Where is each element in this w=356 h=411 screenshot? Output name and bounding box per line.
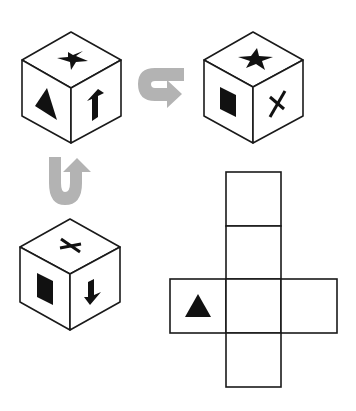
- u-turn-arrow-up-icon: [49, 157, 91, 205]
- cube-puzzle-figure: cross: [0, 0, 356, 411]
- u-turn-arrow-right-icon: [138, 68, 184, 108]
- net-cell-center: [226, 279, 281, 333]
- net-cell-bottom: [226, 333, 281, 387]
- net-cell-top: [226, 172, 281, 226]
- net-cell-right: [281, 279, 337, 333]
- cube-1: [22, 32, 121, 143]
- cube-2: [204, 32, 303, 143]
- net-cell-upper-middle: [226, 226, 281, 279]
- cube-3: [20, 219, 120, 330]
- cube-net: [170, 172, 337, 387]
